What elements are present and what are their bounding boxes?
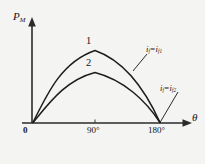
series-2-label-sub2: f2 [172,87,176,93]
series-2-label: if=if2 [160,84,176,93]
x-tick-label-90: 90° [87,126,100,135]
power-angle-figure: PM θ 1 2 if=if1 if=if2 0 90° 180° [0,0,205,164]
curve-2-number: 2 [86,58,91,69]
leader-line-series-1 [133,54,147,71]
series-1-label: if=if1 [146,45,162,54]
x-tick-label-0: 0 [23,126,28,135]
y-axis-arrowhead [28,17,36,27]
x-axis-arrowhead [183,119,193,127]
y-axis-label-subscript: M [20,16,26,23]
x-axis-label: θ [192,112,197,123]
y-axis-label-text: P [13,10,20,22]
series-1-label-eq: =i [150,44,158,54]
series-2-label-sub1: f [162,87,163,93]
curve-1-number: 1 [86,36,91,47]
x-tick-label-180: 180° [148,126,165,135]
leader-line-series-2 [160,92,178,123]
curve-series-2 [33,73,160,123]
series-2-label-eq: =i [164,83,172,93]
y-axis-label: PM [13,11,25,22]
plot-canvas [0,0,205,164]
series-1-label-sub1: f [148,48,149,54]
series-1-label-sub2: f1 [158,48,162,54]
